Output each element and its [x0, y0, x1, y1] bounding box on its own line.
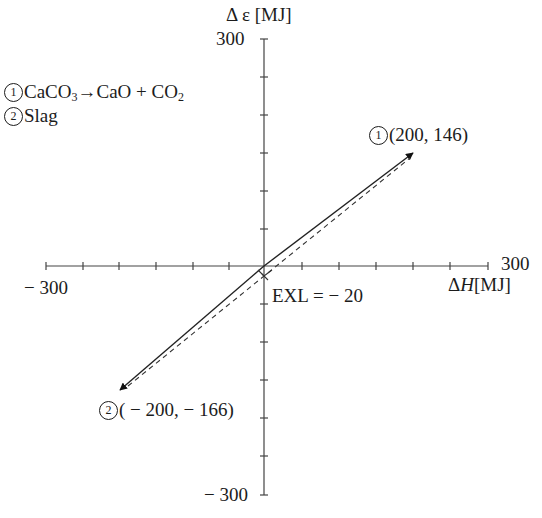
- y-axis: [260, 39, 268, 495]
- point-2-label: 2( − 200, − 166): [99, 399, 234, 421]
- exl-annotation: EXL = − 20: [272, 285, 363, 307]
- solid-vector-line-2: [120, 266, 264, 390]
- x-max-label: 300: [501, 253, 530, 275]
- circled-number-icon: 1: [369, 126, 388, 145]
- solid-vector-line: [264, 153, 413, 266]
- diagram-canvas: [0, 0, 542, 518]
- circled-number-icon: 2: [99, 401, 118, 420]
- y-axis-label: Δ ε [MJ]: [226, 4, 292, 26]
- legend-item-2: 2Slag: [4, 104, 58, 128]
- exl-gap-marker: [258, 270, 272, 280]
- x-axis-label: ΔH[MJ]: [448, 274, 511, 296]
- y-min-label: − 300: [204, 484, 248, 506]
- legend-item-1: 1CaCO3→CaO + CO2: [4, 80, 184, 104]
- x-min-label: − 300: [24, 277, 68, 299]
- point-1-label: 1(200, 146): [369, 124, 468, 146]
- circled-number-icon: 1: [4, 83, 23, 102]
- circled-number-icon: 2: [4, 107, 23, 126]
- y-max-label: 300: [216, 28, 245, 50]
